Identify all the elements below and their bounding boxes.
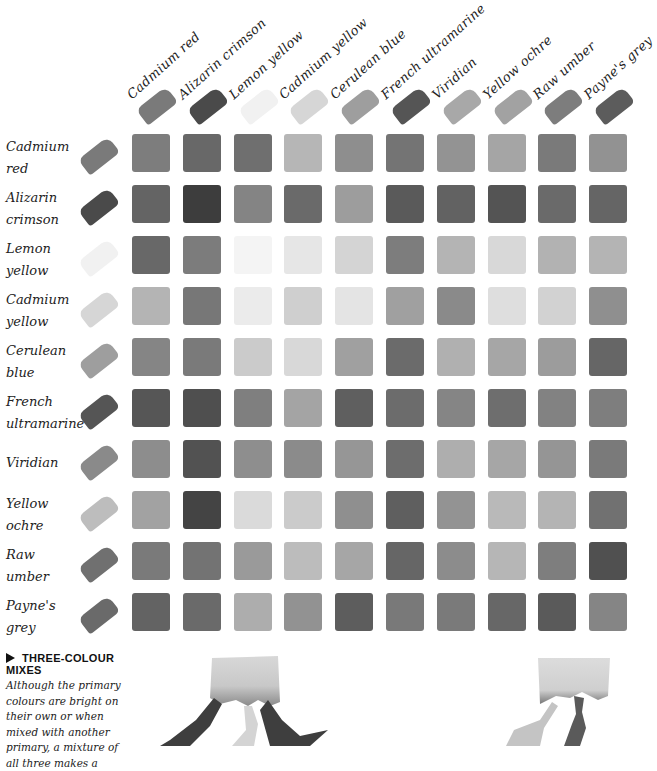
row-label-line: yellow	[6, 260, 86, 282]
row-label-line: Alizarin	[6, 187, 86, 209]
mix-swatch	[284, 134, 322, 172]
swatch-row: Frenchultramarine	[0, 389, 657, 439]
mix-swatch	[234, 491, 272, 529]
row-label-line: crimson	[6, 209, 86, 231]
mix-swatch	[589, 491, 627, 529]
mix-swatch	[132, 134, 170, 172]
three-colour-mixes-caption: THREE-COLOUR MIXES Although the primary …	[6, 652, 141, 771]
mix-swatch	[538, 236, 576, 274]
row-label-line: Cadmium	[6, 289, 86, 311]
mix-swatch	[335, 185, 373, 223]
paint-stroke-swatch	[78, 442, 120, 481]
mix-swatch	[589, 593, 627, 631]
mix-swatch	[335, 389, 373, 427]
swatch-row: Cadmiumred	[0, 134, 657, 184]
mix-swatch	[437, 134, 475, 172]
mix-swatch	[234, 338, 272, 376]
swatch-row: Ceruleanblue	[0, 338, 657, 388]
mix-swatch	[488, 134, 526, 172]
row-label-line: Yellow	[6, 493, 86, 515]
mix-swatch	[132, 542, 170, 580]
caption-line: primary, a mixture of	[6, 740, 141, 756]
row-label-line: grey	[6, 617, 86, 639]
mix-swatch	[183, 491, 221, 529]
mix-swatch	[488, 491, 526, 529]
three-colour-mix-illustration-left	[150, 650, 340, 746]
caption-line: their own or when	[6, 709, 141, 725]
mix-swatch	[234, 185, 272, 223]
mix-swatch	[132, 593, 170, 631]
caption-line: all three makes a	[6, 756, 141, 771]
mix-swatch	[183, 185, 221, 223]
mix-swatch	[284, 338, 322, 376]
row-label: Cadmiumyellow	[6, 289, 86, 333]
mix-swatch	[132, 287, 170, 325]
mix-swatch	[386, 491, 424, 529]
mix-swatch	[335, 338, 373, 376]
mix-swatch	[589, 389, 627, 427]
mix-swatch	[386, 338, 424, 376]
mix-swatch	[132, 185, 170, 223]
caption-title: THREE-COLOUR MIXES	[6, 652, 141, 676]
mix-swatch	[234, 593, 272, 631]
mix-swatch	[589, 542, 627, 580]
mix-swatch	[538, 491, 576, 529]
swatch-row: Yellowochre	[0, 491, 657, 541]
mix-swatch	[386, 593, 424, 631]
row-label-line: Cerulean	[6, 340, 86, 362]
mix-swatch	[488, 287, 526, 325]
row-label-line: yellow	[6, 311, 86, 333]
mix-swatch	[386, 542, 424, 580]
mix-swatch	[335, 287, 373, 325]
mix-swatch	[589, 440, 627, 478]
mix-swatch	[183, 593, 221, 631]
mix-swatch	[335, 134, 373, 172]
row-label: Viridian	[6, 452, 86, 474]
mix-swatch	[284, 389, 322, 427]
mix-swatch	[335, 542, 373, 580]
mix-swatch	[234, 389, 272, 427]
mix-swatch	[538, 338, 576, 376]
swatch-row: Payne'sgrey	[0, 593, 657, 643]
mix-swatch	[437, 236, 475, 274]
row-label-line: Viridian	[6, 452, 86, 474]
mix-swatch	[589, 236, 627, 274]
mix-swatch	[234, 287, 272, 325]
row-label: Lemonyellow	[6, 238, 86, 282]
mix-swatch	[284, 236, 322, 274]
mix-swatch	[488, 440, 526, 478]
mix-swatch	[132, 338, 170, 376]
three-colour-mix-illustration-right	[470, 648, 610, 746]
mix-swatch	[386, 134, 424, 172]
mix-swatch	[335, 440, 373, 478]
mix-swatch	[284, 491, 322, 529]
mix-swatch	[488, 593, 526, 631]
row-label-line: ultramarine	[6, 413, 86, 435]
mix-swatch	[589, 287, 627, 325]
mix-swatch	[589, 185, 627, 223]
mix-swatch	[132, 389, 170, 427]
row-label-line: blue	[6, 362, 86, 384]
mix-swatch	[437, 593, 475, 631]
mix-swatch	[386, 236, 424, 274]
row-label-line: Payne's	[6, 595, 86, 617]
mix-swatch	[488, 542, 526, 580]
swatch-row: Alizarincrimson	[0, 185, 657, 235]
mix-swatch	[589, 134, 627, 172]
mix-swatch	[335, 593, 373, 631]
caption-body: Although the primary colours are bright …	[6, 678, 141, 771]
row-label: Ceruleanblue	[6, 340, 86, 384]
caption-line: Although the primary	[6, 678, 141, 694]
mix-swatch	[488, 185, 526, 223]
caption-line: colours are bright on	[6, 694, 141, 710]
row-label: Alizarincrimson	[6, 187, 86, 231]
row-label: Payne'sgrey	[6, 595, 86, 639]
mix-swatch	[538, 185, 576, 223]
mix-swatch	[183, 542, 221, 580]
mix-swatch	[488, 338, 526, 376]
mix-swatch	[589, 338, 627, 376]
row-label-line: red	[6, 158, 86, 180]
mix-swatch	[437, 440, 475, 478]
mix-swatch	[183, 389, 221, 427]
mix-swatch	[234, 134, 272, 172]
